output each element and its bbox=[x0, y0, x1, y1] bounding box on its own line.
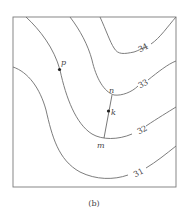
label-p: p bbox=[61, 58, 66, 67]
figure-caption: (b) bbox=[0, 199, 188, 208]
label-k: k bbox=[111, 108, 116, 117]
contour-label-31: 31 bbox=[132, 166, 145, 179]
label-m: m bbox=[97, 141, 105, 150]
contour-label-33: 33 bbox=[137, 78, 150, 91]
point-p-marker bbox=[58, 68, 61, 71]
contour-label-34: 34 bbox=[137, 42, 150, 55]
point-k-marker bbox=[107, 109, 110, 112]
plot-frame bbox=[13, 17, 176, 187]
label-n: n bbox=[109, 86, 114, 95]
contour-33 bbox=[70, 17, 176, 95]
contour-diagram: p n k m 34 33 32 31 bbox=[0, 0, 188, 216]
